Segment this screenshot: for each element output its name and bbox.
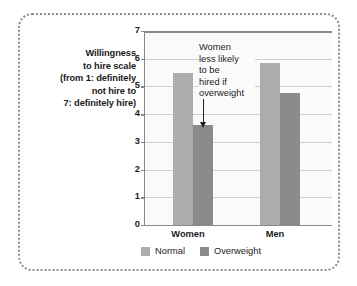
- y-tick-label-4: 4: [126, 108, 140, 118]
- y-tick-label-3: 3: [126, 136, 140, 146]
- annotation-arrow-shaft: [203, 99, 204, 124]
- y-tick-mark-6: [141, 59, 145, 60]
- annotation-line-1: Women: [199, 42, 255, 54]
- bar-women-normal: [173, 73, 193, 225]
- y-tick-label-5: 5: [126, 80, 140, 90]
- legend-swatch-overweight-icon: [200, 247, 209, 256]
- y-tick-mark-3: [141, 142, 145, 143]
- bar-men-overweight: [280, 93, 300, 225]
- y-tick-mark-7: [141, 31, 145, 32]
- y-axis-label: Willingness to hire scale (from 1: defin…: [22, 47, 136, 110]
- annotation-line-2: less likely: [199, 54, 255, 66]
- y-tick-label-0: 0: [126, 219, 140, 229]
- plot-top-border: [145, 31, 332, 33]
- x-category-label-women: Women: [163, 229, 213, 239]
- figure-container: Willingness to hire scale (from 1: defin…: [0, 0, 357, 286]
- y-axis-label-line-1: Willingness: [22, 47, 136, 60]
- y-tick-mark-5: [141, 86, 145, 87]
- y-tick-mark-0: [141, 225, 145, 226]
- legend-item-overweight: Overweight: [200, 246, 261, 256]
- legend: Normal Overweight: [141, 246, 269, 256]
- legend-label-normal: Normal: [155, 246, 185, 256]
- y-tick-mark-1: [141, 197, 145, 198]
- annotation-arrow-down-icon: [200, 122, 206, 128]
- bar-men-normal: [260, 63, 280, 225]
- legend-swatch-normal-icon: [141, 247, 150, 256]
- bar-women-overweight: [193, 125, 213, 225]
- annotation-line-3: to be: [199, 65, 255, 77]
- legend-label-overweight: Overweight: [214, 246, 261, 256]
- y-axis-label-line-4: not hire to: [22, 85, 136, 98]
- y-tick-label-7: 7: [126, 25, 140, 35]
- y-tick-mark-2: [141, 170, 145, 171]
- annotation-line-4: hired if: [199, 77, 255, 89]
- y-tick-label-6: 6: [126, 53, 140, 63]
- y-axis-label-line-3: (from 1: definitely: [22, 72, 136, 85]
- y-axis-line: [144, 31, 145, 225]
- annotation-line-5: overweight: [199, 88, 255, 100]
- y-tick-label-1: 1: [126, 191, 140, 201]
- x-category-label-men: Men: [250, 229, 300, 239]
- y-tick-label-2: 2: [126, 164, 140, 174]
- x-axis-line: [145, 225, 332, 227]
- y-axis-label-line-5: 7: definitely hire): [22, 97, 136, 110]
- y-axis-label-line-2: to hire scale: [22, 60, 136, 73]
- y-tick-mark-4: [141, 114, 145, 115]
- legend-item-normal: Normal: [141, 246, 185, 256]
- chart-annotation: Women less likely to be hired if overwei…: [199, 42, 255, 100]
